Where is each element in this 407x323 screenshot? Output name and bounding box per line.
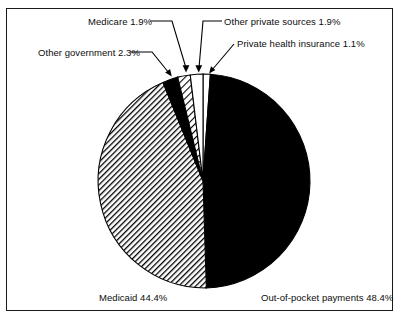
pie-label-other-government: Other government 2.3% xyxy=(38,47,140,58)
pie-chart-figure: Medicare 1.9% Other government 2.3% Othe… xyxy=(0,0,407,323)
pie-slice-out-of-pocket-payments xyxy=(203,74,310,288)
pie-label-other-private-sources: Other private sources 1.9% xyxy=(224,16,340,27)
leader-line-other-private-sources xyxy=(195,21,222,73)
pie-label-out-of-pocket-payments: Out-of-pocket payments 48.4% xyxy=(261,292,393,303)
pie-label-private-health-insurance: Private health insurance 1.1% xyxy=(237,38,365,49)
pie-label-medicaid: Medicaid 44.4% xyxy=(99,292,167,303)
leader-line-medicare xyxy=(150,21,189,73)
pie-label-medicare: Medicare 1.9% xyxy=(88,16,152,27)
leader-line-private-health-insurance xyxy=(209,44,234,73)
